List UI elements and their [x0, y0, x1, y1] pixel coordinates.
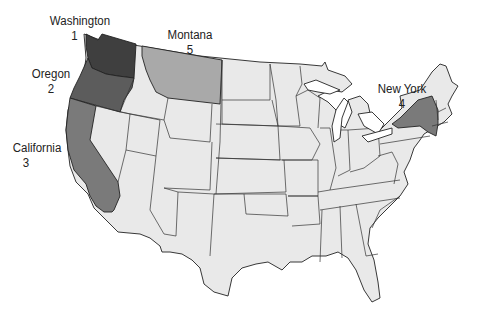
label-montana: Montana 5: [164, 28, 216, 58]
label-washington-rank: 1: [43, 29, 117, 44]
label-new-york: New York 4: [373, 82, 432, 112]
label-new-york-rank: 4: [373, 97, 432, 112]
label-montana-rank: 5: [164, 43, 216, 58]
label-oregon-rank: 2: [28, 82, 74, 97]
label-oregon: Oregon 2: [28, 67, 74, 97]
label-california: California 3: [8, 141, 65, 171]
label-oregon-name: Oregon: [28, 67, 74, 82]
label-new-york-name: New York: [373, 82, 432, 97]
label-washington: Washington 1: [43, 14, 117, 44]
label-montana-name: Montana: [164, 28, 216, 43]
label-california-rank: 3: [8, 156, 65, 171]
label-washington-name: Washington: [43, 14, 117, 29]
label-california-name: California: [8, 141, 65, 156]
us-map: [0, 0, 488, 315]
